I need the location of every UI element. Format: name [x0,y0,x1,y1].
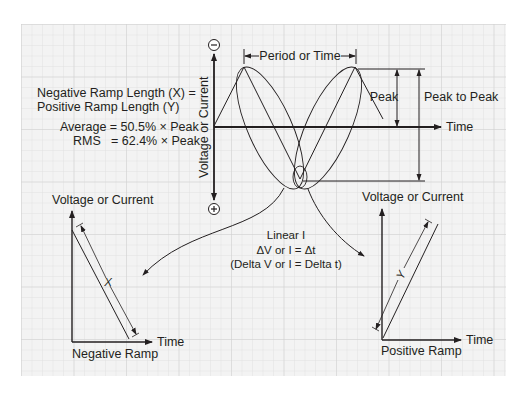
linear-note-line-2: ΔV or I = Δt [256,244,316,256]
negative-ramp-dimension-label: X [103,276,113,288]
positive-ramp-x-axis-label: Time [466,333,493,347]
peak-to-peak-label: Peak to Peak [424,90,499,104]
linear-note-line-3: (Delta V or I = Delta t) [230,258,342,270]
rms-label: RMS [73,134,101,148]
negative-polarity-icon [209,40,220,51]
positive-ramp-y-axis-label: Voltage or Current [362,190,464,204]
negative-ramp-x-axis-label: Time [157,335,184,349]
period-dimension: Period or Time [244,49,356,64]
positive-ramp-title: Positive Ramp [381,344,462,358]
negative-ramp-title: Negative Ramp [72,347,158,361]
period-label: Period or Time [259,49,340,63]
formula-line-2: Positive Ramp Length (Y) [37,100,179,114]
average-formula: Average = 50.5% × Peak [60,120,200,134]
linear-note-line-1: Linear I [267,229,305,241]
positive-polarity-icon [209,204,220,215]
sawtooth-waveform-diagram: Negative Ramp Length (X) = Positive Ramp… [0,0,527,393]
rms-formula: = 62.4% × Peak [111,134,201,148]
main-y-axis-label: Voltage or Current [197,76,211,178]
negative-ramp-y-axis-label: Voltage or Current [52,193,154,207]
formula-line-1: Negative Ramp Length (X) = [37,86,196,100]
time-axis-label: Time [446,120,473,134]
peak-label: Peak [370,90,399,104]
